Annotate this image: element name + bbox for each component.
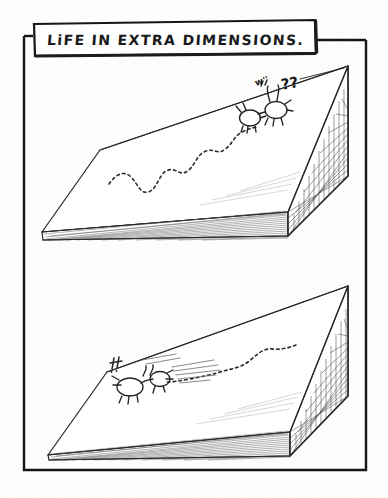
comic-artwork: ?? w'' bbox=[0, 0, 388, 498]
bottom-panel-scene bbox=[48, 286, 348, 460]
question-marks-top: ?? bbox=[280, 73, 300, 94]
comic-strip: ?? w'' bbox=[0, 0, 388, 498]
title-banner bbox=[34, 20, 317, 56]
top-panel-scene: ?? w'' bbox=[42, 66, 348, 240]
